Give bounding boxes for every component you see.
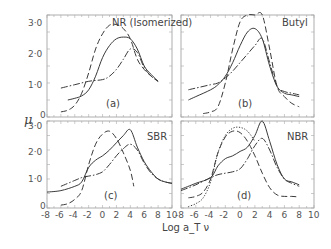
x-tick-label: -6 — [55, 210, 64, 220]
x-tick-label: 2 — [252, 210, 258, 220]
series-solid-line — [68, 37, 158, 100]
series-dash-dot-line — [61, 144, 172, 186]
x-tick-label: 8 — [155, 210, 161, 220]
x-tick-label: -2 — [83, 210, 92, 220]
x-tick-label: 0 — [237, 210, 243, 220]
panel-d-title: NBR — [287, 131, 308, 142]
panel-a-title: NR (Isomerized) — [112, 17, 192, 28]
x-tick-label: 10 — [308, 210, 319, 220]
panel-b-title: Butyl — [282, 17, 308, 28]
x-tick-label: -6 — [190, 210, 199, 220]
x-axis-label: Log a_T ν — [162, 222, 209, 233]
series-solid-line — [188, 28, 299, 100]
x-tick-label: 6 — [141, 210, 147, 220]
panel-b-label: (b) — [238, 98, 252, 109]
x-tick-label: 4 — [267, 210, 273, 220]
x-tick-label: -4 — [205, 210, 214, 220]
panel-d-label: (d) — [237, 190, 251, 201]
panel-c-title: SBR — [147, 131, 167, 142]
x-tick-label: -2 — [219, 210, 228, 220]
x-tick-label: 8 — [296, 210, 302, 220]
x-tick-label: 4 — [127, 210, 133, 220]
x-tick-label: 6 — [281, 210, 287, 220]
series-dashed-line — [61, 131, 134, 205]
x-tick-label: 0 — [100, 210, 106, 220]
x-tick-label: -8 — [175, 210, 184, 220]
panel-a-label: (a) — [106, 98, 120, 109]
x-tick-label: -8 — [41, 210, 50, 220]
series-solid-line — [181, 121, 299, 189]
panel-c-label: (c) — [104, 190, 117, 201]
x-tick-label: 2 — [113, 210, 119, 220]
series-dash-dot-line — [188, 38, 299, 95]
x-tick-label: -4 — [69, 210, 78, 220]
